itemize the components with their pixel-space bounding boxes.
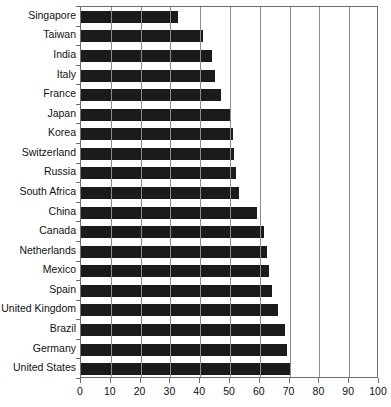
gridline <box>200 7 201 377</box>
bar <box>81 167 236 179</box>
bar <box>81 148 234 160</box>
y-axis-label: Mexico <box>43 264 76 275</box>
gridline <box>141 7 142 377</box>
x-axis-tick-label: 10 <box>104 385 116 397</box>
gridline <box>230 7 231 377</box>
x-axis-tick <box>110 378 111 383</box>
x-axis-tick-label: 0 <box>77 385 83 397</box>
x-axis-tick-label: 20 <box>134 385 146 397</box>
x-axis-tick-label: 30 <box>164 385 176 397</box>
gridline <box>170 7 171 377</box>
x-axis-tick <box>289 378 290 383</box>
y-axis-label: Netherlands <box>19 245 76 256</box>
x-axis-ticks <box>80 378 378 383</box>
x-axis-tick <box>348 378 349 383</box>
bar <box>81 50 212 62</box>
y-axis-label: Brazil <box>50 323 76 334</box>
y-axis-label: Japan <box>47 108 76 119</box>
x-axis-tick <box>259 378 260 383</box>
plot-area <box>80 6 378 378</box>
y-axis-label: India <box>53 49 76 60</box>
y-axis-label: Italy <box>57 69 76 80</box>
x-axis-tick <box>169 378 170 383</box>
x-axis-tick-label: 100 <box>369 385 387 397</box>
y-axis-label: South Africa <box>19 186 76 197</box>
bar <box>81 265 269 277</box>
y-axis-label: United Kingdom <box>1 303 76 314</box>
y-axis-label: Switzerland <box>22 147 76 158</box>
bar <box>81 30 203 42</box>
gridline <box>319 7 320 377</box>
bar <box>81 363 290 375</box>
chart-title-remnant <box>0 0 391 4</box>
y-axis-label: Russia <box>44 166 76 177</box>
x-axis-tick-label: 50 <box>223 385 235 397</box>
bar <box>81 226 264 238</box>
gridline <box>260 7 261 377</box>
x-axis-tick <box>80 378 81 383</box>
y-axis-labels: SingaporeTaiwanIndiaItalyFranceJapanKore… <box>0 6 76 378</box>
gridline <box>349 7 350 377</box>
gridline <box>111 7 112 377</box>
x-axis-tick <box>140 378 141 383</box>
bar-chart: SingaporeTaiwanIndiaItalyFranceJapanKore… <box>0 0 391 407</box>
x-axis-tick <box>378 378 379 383</box>
bar <box>81 70 215 82</box>
y-axis-label: United States <box>13 362 76 373</box>
bars-layer <box>81 7 377 377</box>
bar <box>81 109 230 121</box>
x-axis-tick-label: 80 <box>313 385 325 397</box>
bar <box>81 285 272 297</box>
gridline <box>290 7 291 377</box>
y-axis-label: China <box>49 206 76 217</box>
y-axis-label: Germany <box>33 343 76 354</box>
x-axis-tick <box>199 378 200 383</box>
x-axis-tick-label: 70 <box>283 385 295 397</box>
bar <box>81 187 239 199</box>
x-axis-tick-label: 40 <box>193 385 205 397</box>
y-axis-label: Singapore <box>28 10 76 21</box>
bar <box>81 246 267 258</box>
y-axis-label: Korea <box>48 127 76 138</box>
bar <box>81 128 233 140</box>
x-axis-tick <box>229 378 230 383</box>
y-axis-label: France <box>43 88 76 99</box>
bar <box>81 11 178 23</box>
y-axis-label: Taiwan <box>43 29 76 40</box>
x-axis-tick-label: 90 <box>342 385 354 397</box>
x-axis-tick-label: 60 <box>253 385 265 397</box>
y-axis-label: Canada <box>39 225 76 236</box>
x-axis-tick <box>318 378 319 383</box>
x-axis-labels: 0102030405060708090100 <box>0 385 391 403</box>
y-axis-label: Spain <box>49 284 76 295</box>
